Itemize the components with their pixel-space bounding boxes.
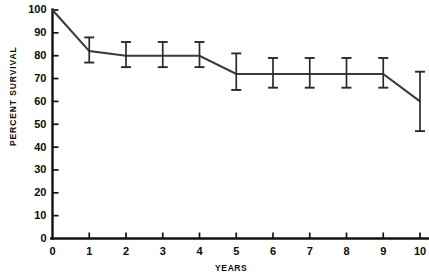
survival-chart-figure: 0102030405060708090100012345678910YEARSP…: [0, 0, 429, 278]
x-axis-tick-label: 1: [86, 245, 92, 257]
y-axis-tick-label: 40: [34, 141, 46, 153]
x-axis-tick-label: 3: [160, 245, 166, 257]
y-axis-tick-label: 50: [34, 118, 46, 130]
x-axis-tick-label: 8: [343, 245, 349, 257]
x-axis-tick-label: 10: [414, 245, 426, 257]
x-axis-tick-label: 6: [270, 245, 276, 257]
y-axis-tick-label: 90: [34, 26, 46, 38]
x-axis-tick-label: 5: [233, 245, 239, 257]
y-axis-tick-label: 100: [28, 3, 46, 15]
y-axis-tick-label: 30: [34, 163, 46, 175]
y-axis-title: PERCENT SURVIVAL: [8, 46, 18, 146]
x-axis-tick-label: 0: [49, 245, 55, 257]
x-axis-title: YEARS: [215, 263, 247, 273]
y-axis-tick-label: 20: [34, 186, 46, 198]
y-axis-tick-label: 10: [34, 209, 46, 221]
x-axis-tick-label: 7: [307, 245, 313, 257]
y-axis-tick-label: 80: [34, 49, 46, 61]
y-axis-tick-label: 0: [40, 232, 46, 244]
x-axis-tick-label: 4: [196, 245, 203, 257]
x-axis-tick-label: 9: [380, 245, 386, 257]
chart-plot-area: 0102030405060708090100012345678910YEARSP…: [0, 0, 429, 278]
x-axis-tick-label: 2: [123, 245, 129, 257]
y-axis-tick-label: 60: [34, 95, 46, 107]
y-axis-tick-label: 70: [34, 72, 46, 84]
